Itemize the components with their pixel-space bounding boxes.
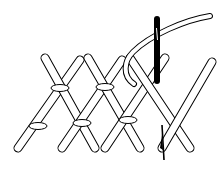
stitch-diagram xyxy=(0,0,223,175)
diagram-svg xyxy=(0,0,223,175)
stitch-tie xyxy=(73,120,91,127)
stitch-tie xyxy=(96,84,114,91)
stitch-tie xyxy=(51,85,69,92)
needle-icon xyxy=(154,16,160,84)
stitch-tie xyxy=(119,117,137,124)
stitch-tie xyxy=(29,123,47,130)
